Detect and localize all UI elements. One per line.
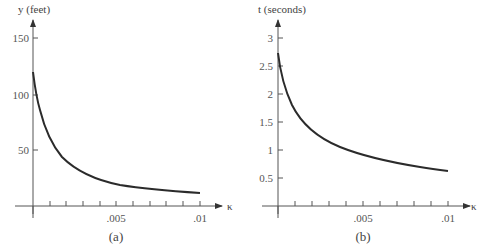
chart-b-ytick-label-1-5: 1.5 — [259, 116, 273, 128]
chart-b-xtick-label-005: .005 — [353, 212, 373, 224]
chart-a-xticks — [50, 201, 200, 206]
chart-b-caption: (b) — [355, 229, 370, 244]
chart-b-ytick-label-3: 3 — [268, 32, 274, 44]
chart-a-xtick-label-01: .01 — [193, 212, 207, 224]
chart-b-ytick-label-2: 2 — [268, 88, 274, 100]
chart-b-ytick-label-0-5: 0.5 — [259, 172, 273, 184]
chart-b-ytick-label-2-5: 2.5 — [259, 60, 273, 72]
chart-a-ytick-label-100: 100 — [13, 89, 30, 101]
chart-a-xtick-label-005: .005 — [106, 212, 126, 224]
chart-b-xtick-label-01: .01 — [441, 212, 455, 224]
chart-b-ylabel: t (seconds) — [258, 3, 306, 16]
chart-a: y (feet) 150 100 50 .005 .01 κ (a) — [13, 3, 234, 244]
figure: y (feet) 150 100 50 .005 .01 κ (a) — [0, 0, 478, 252]
chart-b-xticks — [295, 201, 448, 206]
chart-b-curve — [278, 53, 448, 171]
chart-a-xlabel: κ — [227, 200, 233, 212]
chart-b: t (seconds) 3 2.5 2 1.5 1 0.5 .005 .01 κ… — [258, 3, 477, 244]
chart-a-caption: (a) — [109, 229, 123, 244]
chart-b-ytick-label-1: 1 — [268, 144, 274, 156]
chart-a-ytick-label-50: 50 — [18, 144, 30, 156]
chart-b-xlabel: κ — [471, 200, 477, 212]
chart-a-ytick-label-150: 150 — [13, 32, 30, 44]
chart-a-ylabel: y (feet) — [18, 3, 50, 16]
chart-a-curve — [33, 72, 200, 193]
